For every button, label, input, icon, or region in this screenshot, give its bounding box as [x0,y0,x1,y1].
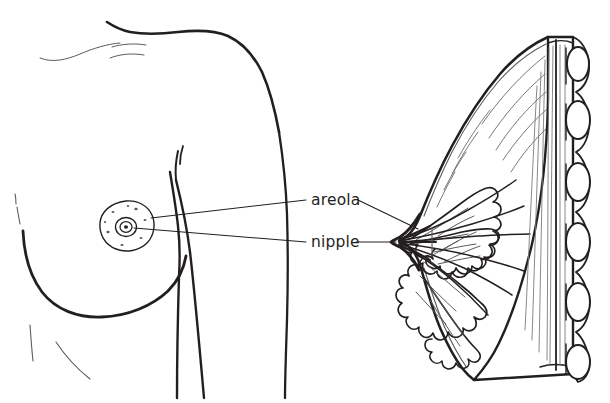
rib-oval [567,47,589,81]
rib-oval [566,223,590,261]
figure-background [0,0,610,403]
anatomy-figure: areola nipple [0,0,610,403]
rib-oval [566,101,590,139]
label-areola: areola [311,191,361,209]
rib-oval [566,283,590,321]
anatomy-illustration-svg: areola nipple [0,0,610,403]
rib-oval [566,163,590,201]
label-nipple: nipple [311,233,360,251]
nipple-center [124,225,128,229]
rib-oval [566,345,590,379]
